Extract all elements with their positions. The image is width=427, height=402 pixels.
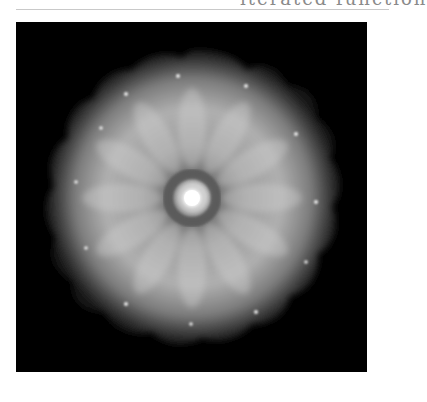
- fractal-image: [16, 22, 367, 372]
- fractal-figure: [16, 22, 367, 372]
- clipped-heading: iterated function: [240, 0, 390, 6]
- header-divider: [16, 9, 389, 10]
